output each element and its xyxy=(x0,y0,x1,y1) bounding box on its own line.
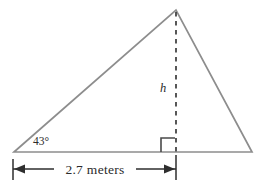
geometry-figure: 43° h 2.7 meters xyxy=(0,0,260,183)
dimension-arrow-left-icon xyxy=(14,165,25,174)
dimension-arrow-right-icon xyxy=(164,165,175,174)
triangle-outline xyxy=(14,10,252,152)
height-label: h xyxy=(160,81,166,95)
right-angle-marker-icon xyxy=(161,138,175,152)
base-dimension-label: 2.7 meters xyxy=(65,162,124,177)
figure-canvas: 43° h 2.7 meters xyxy=(0,0,260,183)
angle-label: 43° xyxy=(33,135,50,147)
